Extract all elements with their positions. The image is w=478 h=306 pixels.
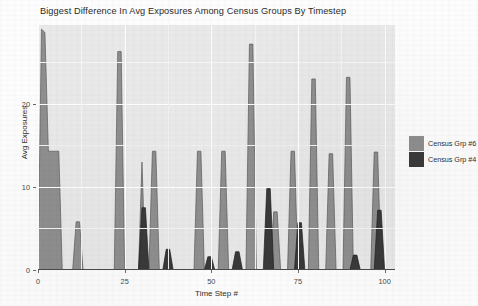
y-tick-label: 0: [8, 266, 30, 275]
chart-legend: Census Grp #6 Census Grp #4: [409, 135, 476, 167]
legend-item[interactable]: Census Grp #4: [409, 151, 476, 167]
gridline-vertical: [298, 25, 299, 270]
gridline-vertical: [385, 25, 386, 270]
gridline-vertical: [38, 25, 39, 270]
legend-label-census-grp-6: Census Grp #6: [428, 139, 476, 148]
x-tick-mark: [125, 270, 126, 273]
x-tick-label: 100: [373, 277, 397, 286]
chart-title: Biggest Difference In Avg Exposures Amon…: [40, 6, 346, 16]
gridline-vertical-minor: [81, 25, 82, 270]
x-tick-mark: [211, 270, 212, 273]
y-tick-mark: [33, 270, 36, 271]
x-tick-mark: [385, 270, 386, 273]
x-tick-label: 50: [199, 277, 223, 286]
x-axis-title: Time Step #: [38, 289, 395, 298]
legend-item[interactable]: Census Grp #6: [409, 135, 476, 151]
y-tick-label: 20: [8, 100, 30, 109]
x-axis-line: [38, 269, 395, 270]
legend-label-census-grp-4: Census Grp #4: [428, 155, 476, 164]
x-tick-mark: [38, 270, 39, 273]
gridline-vertical-minor: [341, 25, 342, 270]
y-tick-mark: [33, 187, 36, 188]
y-tick-label: 10: [8, 183, 30, 192]
y-tick-mark: [33, 104, 36, 105]
legend-swatch-census-grp-6: [409, 136, 424, 151]
chart-container: Biggest Difference In Avg Exposures Amon…: [0, 0, 478, 306]
gridline-vertical: [125, 25, 126, 270]
x-tick-label: 0: [26, 277, 50, 286]
legend-swatch-census-grp-4: [409, 152, 424, 167]
gridline-vertical-minor: [255, 25, 256, 270]
gridline-vertical: [211, 25, 212, 270]
gridline-vertical-minor: [168, 25, 169, 270]
x-tick-label: 25: [113, 277, 137, 286]
x-tick-label: 75: [286, 277, 310, 286]
plot-panel: [38, 25, 395, 270]
x-tick-mark: [298, 270, 299, 273]
